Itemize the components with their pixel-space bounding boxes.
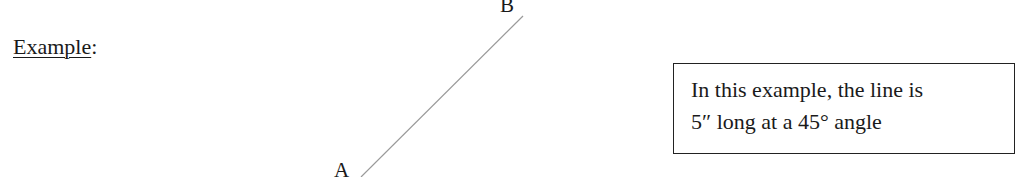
- explanation-line-2: 5″ long at a 45° angle: [691, 106, 1014, 138]
- point-b-label: B: [500, 0, 514, 16]
- line-segment-ab: [361, 16, 523, 177]
- explanation-line-1: In this example, the line is: [691, 74, 1014, 106]
- point-a-label: A: [334, 160, 349, 177]
- explanation-box: In this example, the line is 5″ long at …: [673, 63, 1015, 154]
